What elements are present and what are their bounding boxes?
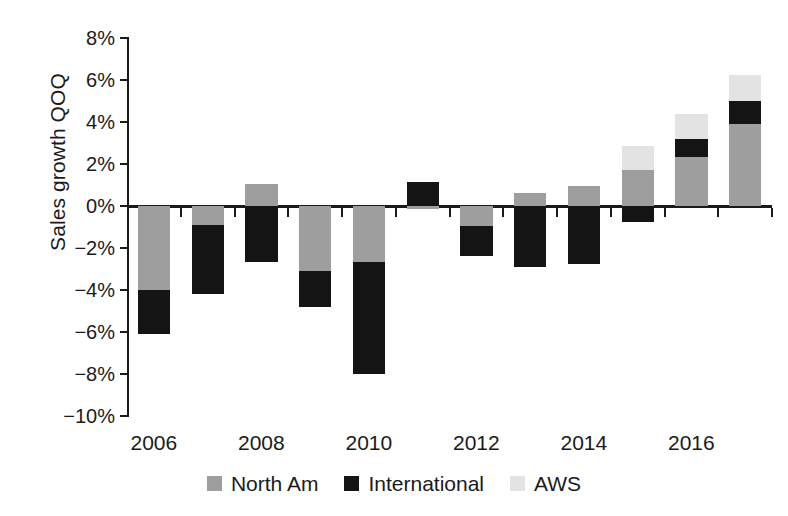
bar-segment-international: [622, 206, 654, 222]
y-tick-label: 4%: [86, 112, 115, 132]
bar-segment-north-am: [675, 157, 707, 206]
x-tick-mark: [771, 208, 773, 217]
x-tick-label: 2014: [561, 432, 608, 453]
legend-item[interactable]: AWS: [510, 473, 581, 494]
y-tick-mark: [120, 121, 129, 123]
x-tick-mark: [287, 208, 289, 217]
y-tick-mark: [120, 163, 129, 165]
y-axis-line: [127, 38, 129, 416]
y-tick-mark: [120, 79, 129, 81]
x-tick-mark: [610, 208, 612, 217]
y-tick-label: 0%: [86, 196, 115, 216]
bar-segment-north-am: [514, 193, 546, 206]
bar-group[interactable]: [192, 38, 224, 416]
bar-group[interactable]: [460, 38, 492, 416]
x-tick-mark: [449, 208, 451, 217]
bar-segment-aws: [675, 114, 707, 139]
bar-segment-international: [299, 271, 331, 307]
legend-swatch-icon: [207, 476, 222, 491]
y-tick-mark: [120, 415, 129, 417]
bar-segment-international: [568, 206, 600, 264]
x-tick-mark: [395, 208, 397, 217]
x-tick-mark: [717, 208, 719, 217]
bar-segment-north-am: [299, 206, 331, 271]
y-tick-mark: [120, 373, 129, 375]
x-tick-label: 2008: [238, 432, 285, 453]
bar-segment-north-am: [192, 206, 224, 225]
chart-legend: North AmInternationalAWS: [0, 473, 788, 494]
bar-segment-international: [729, 101, 761, 124]
legend-label: North Am: [231, 473, 319, 494]
plot-area: 8%6%4%2%0%−2%−4%−6%−8%−10%: [127, 38, 772, 416]
y-tick-label: −8%: [74, 364, 115, 384]
bar-group[interactable]: [568, 38, 600, 416]
bar-segment-north-am: [622, 170, 654, 206]
x-tick-label: 2006: [131, 432, 178, 453]
x-tick-mark: [502, 208, 504, 217]
x-tick-label: 2010: [346, 432, 393, 453]
bar-group[interactable]: [729, 38, 761, 416]
x-tick-mark: [341, 208, 343, 217]
bar-segment-north-am: [460, 206, 492, 226]
bar-segment-international: [460, 226, 492, 256]
legend-label: International: [368, 473, 484, 494]
bar-group[interactable]: [299, 38, 331, 416]
bar-segment-north-am: [729, 124, 761, 206]
bar-group[interactable]: [622, 38, 654, 416]
legend-swatch-icon: [510, 476, 525, 491]
bar-segment-aws: [622, 146, 654, 170]
legend-item[interactable]: North Am: [207, 473, 319, 494]
x-tick-mark: [180, 208, 182, 217]
bar-group[interactable]: [138, 38, 170, 416]
x-tick-label: 2016: [668, 432, 715, 453]
bar-group[interactable]: [353, 38, 385, 416]
bar-segment-north-am: [138, 206, 170, 290]
legend-swatch-icon: [344, 476, 359, 491]
chart-container: Sales growth QOQ 8%6%4%2%0%−2%−4%−6%−8%−…: [0, 0, 788, 516]
bar-segment-international: [514, 206, 546, 267]
bar-group[interactable]: [514, 38, 546, 416]
x-tick-mark: [664, 208, 666, 217]
bar-group[interactable]: [245, 38, 277, 416]
y-tick-label: −2%: [74, 238, 115, 258]
bar-segment-north-am: [407, 206, 439, 209]
y-tick-mark: [120, 247, 129, 249]
x-tick-mark: [234, 208, 236, 217]
y-tick-mark: [120, 331, 129, 333]
y-tick-label: 6%: [86, 70, 115, 90]
y-tick-label: 8%: [86, 28, 115, 48]
bar-segment-north-am: [568, 186, 600, 206]
bar-segment-aws: [729, 75, 761, 101]
bar-segment-international: [675, 139, 707, 157]
bar-group[interactable]: [407, 38, 439, 416]
y-tick-label: −4%: [74, 280, 115, 300]
x-tick-label: 2012: [453, 432, 500, 453]
bar-segment-north-am: [353, 206, 385, 262]
legend-label: AWS: [534, 473, 581, 494]
y-tick-label: 2%: [86, 154, 115, 174]
legend-item[interactable]: International: [344, 473, 484, 494]
bar-segment-international: [192, 225, 224, 294]
bar-group[interactable]: [675, 38, 707, 416]
bar-segment-international: [353, 262, 385, 374]
y-axis-title: Sales growth QOQ: [46, 42, 70, 282]
y-tick-label: −10%: [63, 406, 115, 426]
bar-segment-international: [138, 290, 170, 334]
bar-segment-international: [407, 182, 439, 206]
x-tick-mark: [556, 208, 558, 217]
bar-segment-international: [245, 206, 277, 262]
bar-segment-north-am: [245, 184, 277, 206]
y-tick-label: −6%: [74, 322, 115, 342]
y-tick-mark: [120, 37, 129, 39]
y-tick-mark: [120, 289, 129, 291]
